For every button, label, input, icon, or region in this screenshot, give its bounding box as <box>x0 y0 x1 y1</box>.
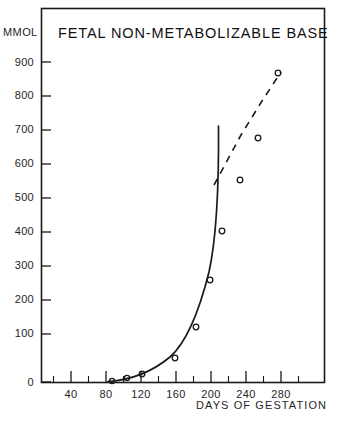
data-point-markers <box>109 70 280 383</box>
y-axis-ticks <box>42 62 52 382</box>
fitted-curve-solid <box>108 126 219 382</box>
extrapolation-dashed <box>214 72 281 185</box>
data-point <box>207 277 213 283</box>
data-point <box>237 177 243 183</box>
data-point <box>219 228 225 234</box>
data-point <box>255 135 261 141</box>
chart-plot-area <box>0 0 339 422</box>
chart-figure: MMOL FETAL NON-METABOLIZABLE BASE DAYS O… <box>0 0 339 422</box>
data-point <box>172 355 178 361</box>
data-point <box>193 324 199 330</box>
x-axis-major-ticks <box>71 371 281 383</box>
plot-frame <box>42 9 325 383</box>
